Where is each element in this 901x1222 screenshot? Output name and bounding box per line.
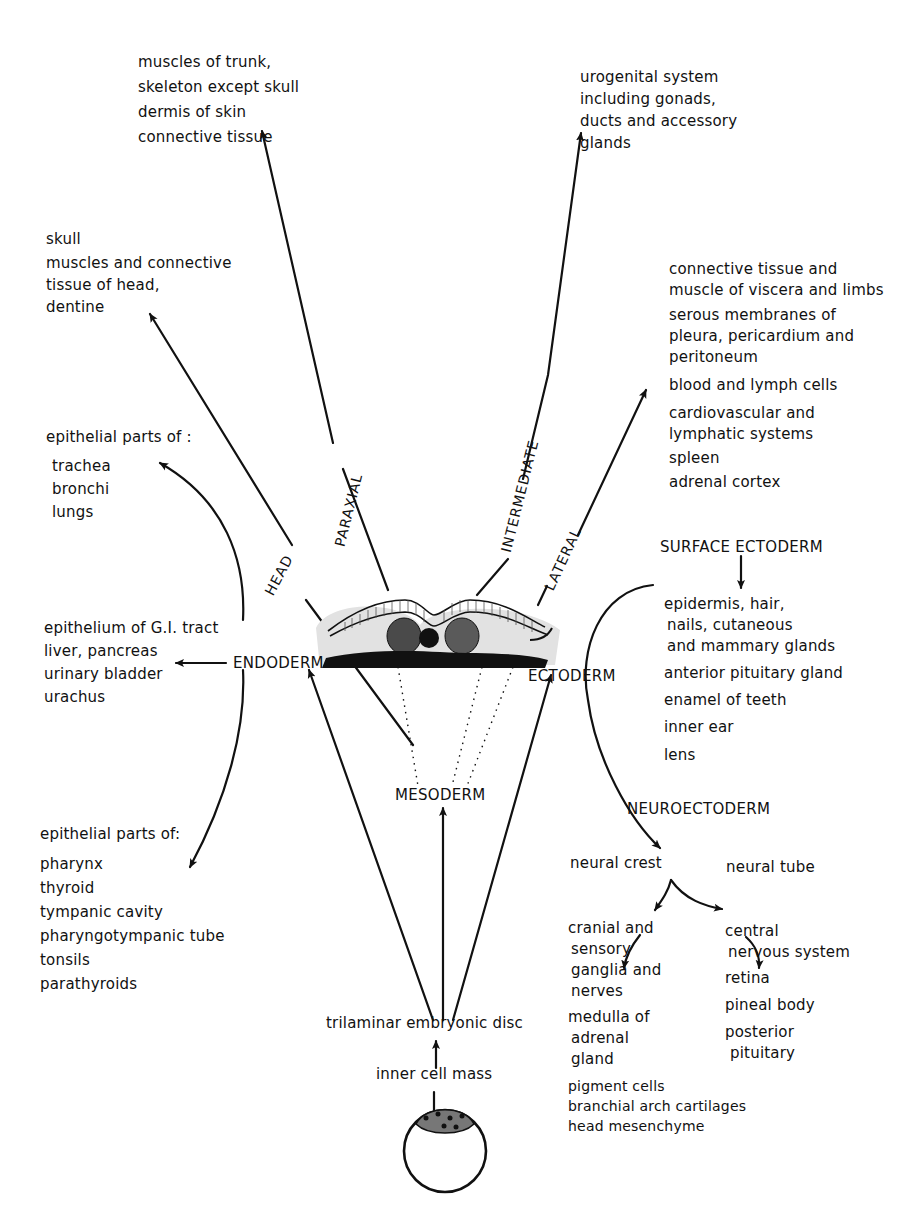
text-line: including gonads, [580, 88, 737, 110]
neural-crest-label: neural crest [570, 853, 662, 874]
intermediate-arrow [477, 133, 581, 595]
text-line: lens [664, 745, 843, 766]
text-line: bronchi [46, 478, 192, 501]
text-line: nervous system [725, 942, 850, 963]
text-line: serous membranes of [669, 305, 884, 326]
paraxial-derivatives: muscles of trunk, skeleton except skull … [138, 50, 299, 150]
text-line: head mesenchyme [568, 1116, 746, 1136]
text-line: muscles of trunk, [138, 50, 299, 75]
text-line: gland [568, 1049, 746, 1070]
text-line: urogenital system [580, 66, 737, 88]
text-line: medulla of [568, 1007, 746, 1028]
disc-to-endoderm-arrow [309, 670, 433, 1020]
text-line: branchial arch cartilages [568, 1096, 746, 1116]
text-line: blood and lymph cells [669, 375, 884, 396]
text-line: pigment cells [568, 1076, 746, 1096]
text-line: enamel of teeth [664, 690, 843, 711]
text-line: adrenal cortex [669, 472, 884, 493]
text-line: peritoneum [669, 347, 884, 368]
germ-layer-derivatives-diagram: muscles of trunk, skeleton except skull … [0, 0, 901, 1222]
surface-ectoderm-title: SURFACE ECTODERM [660, 538, 823, 556]
text-line: urinary bladder [44, 663, 219, 686]
text-line: cranial and [568, 918, 746, 939]
text-line: and mammary glands [664, 636, 843, 657]
neural-tube-label: neural tube [726, 857, 815, 878]
ectoderm-label: ECTODERM [528, 667, 616, 685]
text-line: muscles and connective [46, 252, 232, 274]
endoderm-pharyngeal-derivatives: epithelial parts of: pharynx thyroid tym… [40, 822, 225, 996]
text-line: nails, cutaneous [664, 615, 843, 636]
text-line: liver, pancreas [44, 640, 219, 663]
text-line: skull [46, 228, 232, 250]
endoderm-gi-derivatives: epithelium of G.I. tract liver, pancreas… [44, 617, 219, 709]
section-heading: epithelial parts of : [46, 426, 192, 449]
text-line: epidermis, hair, [664, 594, 843, 615]
intermediate-derivatives: urogenital system including gonads, duct… [580, 66, 737, 154]
text-line: connective tissue [138, 125, 299, 150]
text-line: thyroid [40, 876, 225, 900]
mesoderm-label: MESODERM [395, 786, 486, 804]
text-line: epithelium of G.I. tract [44, 617, 219, 640]
text-line: adrenal [568, 1028, 746, 1049]
text-line: nerves [568, 981, 746, 1002]
text-line: pharynx [40, 852, 225, 876]
endoderm-label: ENDODERM [233, 654, 324, 672]
text-line: connective tissue and [669, 259, 884, 280]
neural-tube-derivatives: central nervous system retina pineal bod… [725, 921, 850, 1064]
text-line: pharyngotympanic tube [40, 924, 225, 948]
neural-crest-derivatives: cranial and sensory ganglia and nerves m… [568, 918, 746, 1136]
lateral-derivatives: connective tissue and muscle of viscera … [669, 259, 884, 493]
text-line: tympanic cavity [40, 900, 225, 924]
disc-to-ectoderm-arrow [453, 675, 551, 1020]
text-line: parathyroids [40, 972, 225, 996]
trilaminar-disc-label: trilaminar embryonic disc [326, 1013, 523, 1034]
text-line: anterior pituitary gland [664, 663, 843, 684]
text-line: skeleton except skull [138, 75, 299, 100]
text-line: trachea [46, 455, 192, 478]
text-line: ducts and accessory [580, 110, 737, 132]
text-line: spleen [669, 448, 884, 469]
inner-cell-mass-label: inner cell mass [376, 1064, 492, 1085]
to-neural-crest-arrow [655, 880, 671, 910]
text-line: tissue of head, [46, 274, 232, 296]
text-line: pituitary [725, 1043, 850, 1064]
text-line: retina [725, 968, 850, 989]
text-line: urachus [44, 686, 219, 709]
text-line: lymphatic systems [669, 424, 884, 445]
head-derivatives: skull muscles and connective tissue of h… [46, 228, 232, 318]
surface-ectoderm-derivatives: epidermis, hair, nails, cutaneous and ma… [664, 594, 843, 766]
text-line: posterior [725, 1022, 850, 1043]
text-line: tonsils [40, 948, 225, 972]
section-heading: epithelial parts of: [40, 822, 225, 846]
text-line: inner ear [664, 717, 843, 738]
text-line: sensory [568, 939, 746, 960]
text-line: central [725, 921, 850, 942]
to-neural-tube-arrow [671, 880, 722, 909]
text-line: lungs [46, 501, 192, 524]
text-line: pineal body [725, 995, 850, 1016]
text-line: dentine [46, 296, 232, 318]
blastocyst-drawing [404, 1110, 486, 1192]
text-line: muscle of viscera and limbs [669, 280, 884, 301]
text-line: cardiovascular and [669, 403, 884, 424]
text-line: dermis of skin [138, 100, 299, 125]
text-line: pleura, pericardium and [669, 326, 884, 347]
endoderm-respiratory-derivatives: epithelial parts of : trachea bronchi lu… [46, 426, 192, 524]
text-line: glands [580, 132, 737, 154]
paraxial-arrow [262, 131, 388, 590]
text-line: ganglia and [568, 960, 746, 981]
embryo-cross-section [316, 600, 560, 668]
neuroectoderm-title: NEUROECTODERM [627, 800, 770, 818]
